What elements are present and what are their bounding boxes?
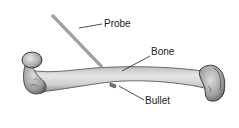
bullet-leader-line — [119, 86, 144, 100]
probe-leader-line — [79, 24, 102, 28]
bullet — [110, 83, 116, 88]
femur-diagram: Probe Bone Bullet — [0, 0, 239, 128]
bullet-label: Bullet — [145, 96, 170, 106]
probe — [52, 15, 102, 67]
femoral-head — [22, 52, 42, 68]
bone — [22, 52, 225, 101]
bone-label: Bone — [151, 47, 174, 57]
bone-shaft — [30, 67, 214, 92]
probe-label: Probe — [104, 19, 131, 29]
